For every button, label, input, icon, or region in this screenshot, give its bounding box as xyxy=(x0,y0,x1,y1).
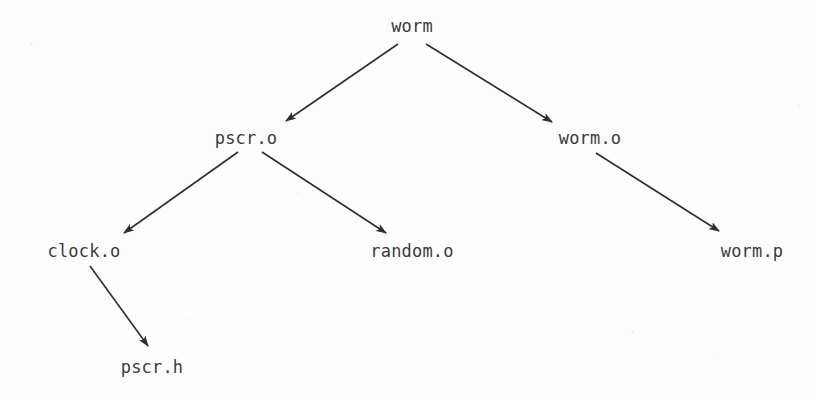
dependency-arrow xyxy=(426,44,552,122)
dependency-arrow xyxy=(124,152,238,233)
node-pscr_h: pscr.h xyxy=(121,359,184,376)
scan-speck xyxy=(631,331,634,334)
node-worm_p: worm.p xyxy=(721,243,784,260)
scan-speck xyxy=(797,104,800,107)
dependency-arrow xyxy=(596,153,719,231)
scan-speck xyxy=(716,353,718,355)
dependency-arrow xyxy=(286,44,398,121)
dependency-arrow xyxy=(90,266,148,346)
node-worm_o: worm.o xyxy=(559,130,622,147)
scan-speck xyxy=(188,318,190,320)
dependency-tree-diagram: wormpscr.oworm.oclock.orandom.oworm.ppsc… xyxy=(0,0,819,399)
node-pscr_o: pscr.o xyxy=(215,130,278,147)
edge-layer xyxy=(0,0,819,399)
scan-speck xyxy=(297,192,299,194)
scan-speck xyxy=(30,42,33,45)
node-clock_o: clock.o xyxy=(47,243,120,260)
node-random_o: random.o xyxy=(370,243,453,260)
dependency-arrow xyxy=(262,152,386,233)
edges-group xyxy=(90,44,719,346)
node-worm: worm xyxy=(391,18,433,35)
